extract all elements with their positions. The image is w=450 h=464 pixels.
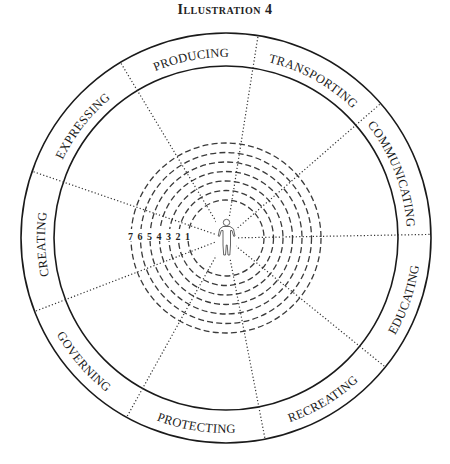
person-icon [216, 218, 236, 258]
level-number-5: 5 [147, 231, 152, 242]
level-number-3: 3 [166, 231, 171, 242]
sector-label-transporting: TRANSPORTING [267, 51, 360, 111]
level-number-7: 7 [128, 231, 133, 242]
sector-label-communicating: COMMUNICATING [365, 118, 418, 228]
sector-label-protecting: PROTECTING [155, 410, 235, 436]
level-number-6: 6 [138, 231, 143, 242]
level-number-4: 4 [157, 231, 162, 242]
sector-label-expressing: EXPRESSING [53, 90, 113, 161]
activity-wheel-diagram: PRODUCING TRANSPORTING COMMUNICATING EDU… [0, 0, 450, 464]
level-number-1: 1 [185, 231, 190, 242]
sector-label-creating: CREATING [34, 211, 52, 278]
level-numbers: 7 6 5 4 3 2 1 [126, 229, 192, 242]
sector-label-educating: EDUCATING [385, 264, 422, 337]
level-number-2: 2 [176, 231, 181, 242]
